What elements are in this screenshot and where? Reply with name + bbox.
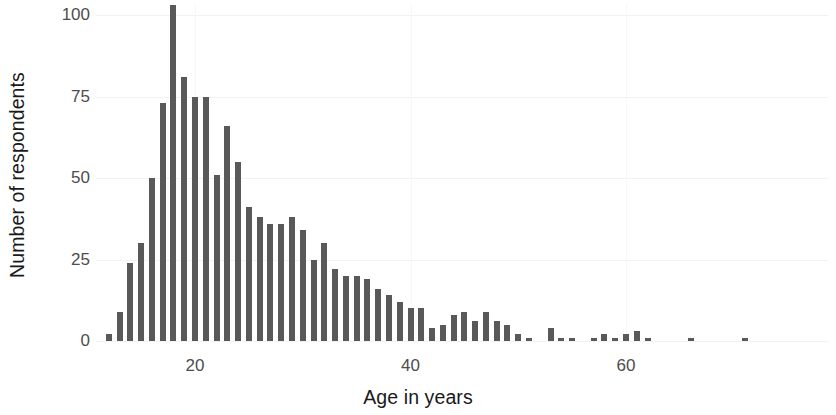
histogram-bar xyxy=(440,325,446,341)
y-axis-tick-label: 25 xyxy=(44,250,90,270)
histogram-bar xyxy=(483,312,489,341)
y-axis-tick-label: 0 xyxy=(44,331,90,351)
y-axis-tick-label: 100 xyxy=(44,5,90,25)
histogram-bar xyxy=(375,289,381,341)
histogram-bar xyxy=(106,334,112,341)
y-axis-tick-label: 50 xyxy=(44,168,90,188)
histogram-bar xyxy=(688,338,694,341)
histogram-bar xyxy=(386,295,392,341)
histogram-bar xyxy=(558,338,564,341)
histogram-bar xyxy=(472,321,478,341)
histogram-bar xyxy=(397,302,403,341)
y-axis-title: Number of respondents xyxy=(4,0,30,350)
x-axis-tick-label: 40 xyxy=(381,356,441,376)
histogram-bar xyxy=(278,224,284,341)
histogram-bar xyxy=(181,77,187,341)
histogram-bar xyxy=(170,5,176,341)
histogram-bar xyxy=(203,97,209,342)
histogram-bar xyxy=(235,162,241,341)
x-axis-title: Age in years xyxy=(0,386,836,409)
histogram-bar xyxy=(451,315,457,341)
gridline-horizontal xyxy=(96,341,828,342)
histogram-bar xyxy=(364,279,370,341)
histogram-bar xyxy=(418,308,424,341)
gridline-vertical xyxy=(411,4,412,341)
histogram-bar xyxy=(214,175,220,341)
histogram-bar xyxy=(321,243,327,341)
histogram-bar xyxy=(289,217,295,341)
histogram-bar xyxy=(224,126,230,341)
histogram-bar xyxy=(117,312,123,341)
x-axis-tick-label: 20 xyxy=(165,356,225,376)
histogram-bar xyxy=(192,97,198,342)
histogram-bar xyxy=(149,178,155,341)
histogram-bar xyxy=(127,263,133,341)
histogram-chart: 0255075100 Number of respondents Age in … xyxy=(0,0,836,415)
histogram-bar xyxy=(504,325,510,341)
histogram-bar xyxy=(623,334,629,341)
histogram-bar xyxy=(742,338,748,341)
y-axis-tick-label: 75 xyxy=(44,87,90,107)
histogram-bar xyxy=(246,207,252,341)
histogram-bar xyxy=(634,331,640,341)
histogram-bar xyxy=(461,312,467,341)
plot-area xyxy=(0,0,836,415)
histogram-bar xyxy=(429,328,435,341)
histogram-bar xyxy=(612,338,618,341)
histogram-bar xyxy=(569,338,575,341)
histogram-bar xyxy=(408,308,414,341)
histogram-bar xyxy=(354,276,360,341)
histogram-bar xyxy=(300,230,306,341)
histogram-bar xyxy=(267,224,273,341)
histogram-bar xyxy=(494,321,500,341)
histogram-bar xyxy=(311,260,317,342)
histogram-bar xyxy=(138,243,144,341)
gridline-vertical xyxy=(626,4,627,341)
gridline-horizontal xyxy=(96,15,828,16)
histogram-bar xyxy=(343,276,349,341)
histogram-bar xyxy=(160,103,166,341)
histogram-bar xyxy=(515,334,521,341)
histogram-bar xyxy=(257,217,263,341)
histogram-bar xyxy=(601,334,607,341)
x-axis-tick-label: 60 xyxy=(596,356,656,376)
histogram-bar xyxy=(526,338,532,341)
histogram-bar xyxy=(591,338,597,341)
histogram-bar xyxy=(548,328,554,341)
histogram-bar xyxy=(332,269,338,341)
histogram-bar xyxy=(645,338,651,341)
